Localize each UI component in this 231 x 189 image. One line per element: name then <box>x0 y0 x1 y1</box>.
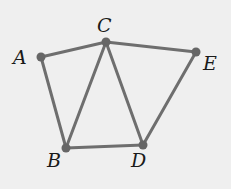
graph-diagram: A C E B D <box>0 0 231 189</box>
label-b: B <box>46 149 61 171</box>
node-a <box>37 53 46 62</box>
edge-b-d <box>66 145 143 148</box>
label-d: D <box>130 149 146 171</box>
node-e <box>192 48 201 57</box>
label-e: E <box>202 52 217 74</box>
label-a: A <box>11 46 27 68</box>
edge-d-e <box>143 52 196 145</box>
edge-c-d <box>106 42 143 145</box>
edge-c-b <box>66 42 106 148</box>
node-c <box>102 38 111 47</box>
node-b <box>62 144 71 153</box>
edge-a-b <box>41 57 66 148</box>
edges <box>41 42 196 148</box>
label-c: C <box>97 14 112 36</box>
edge-c-e <box>106 42 196 52</box>
edge-a-c <box>41 42 106 57</box>
